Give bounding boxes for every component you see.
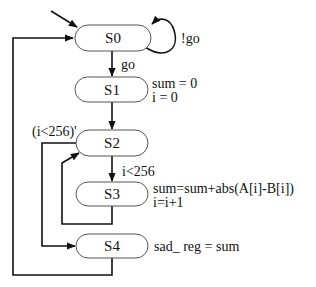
state-label: S1 <box>104 82 120 98</box>
state-s2[interactable]: S2 <box>76 130 148 156</box>
transition-s2-s4: (i<256)' <box>32 124 77 246</box>
reset-transition <box>51 11 77 27</box>
state-diagram: !go go i<256 (i<256)' S0 S1 sum = 0 i = … <box>0 0 316 287</box>
state-label: S2 <box>104 135 120 151</box>
state-label: S0 <box>105 30 121 46</box>
state-label: S3 <box>104 186 120 202</box>
state-s1[interactable]: S1 <box>75 77 148 102</box>
transition-label-not-i-lt-256: (i<256)' <box>32 124 77 140</box>
transition-s0-self-loop: !go <box>145 19 200 53</box>
state-s3[interactable]: S3 <box>76 182 148 206</box>
transition-label-not-go: !go <box>181 31 200 46</box>
transition-s0-s1: go <box>112 50 135 76</box>
state-s4-action-1: sad_ reg = sum <box>154 239 239 254</box>
transition-s2-s3: i<256 <box>112 156 155 181</box>
state-label: S4 <box>104 238 120 254</box>
state-s4[interactable]: S4 <box>76 234 148 258</box>
state-s1-action-2: i = 0 <box>152 90 178 105</box>
transition-label-i-lt-256: i<256 <box>122 164 155 179</box>
state-s1-action-1: sum = 0 <box>152 76 197 91</box>
state-s0[interactable]: S0 <box>75 25 151 51</box>
transition-label-go: go <box>121 57 135 72</box>
state-s3-action-2: i=i+1 <box>153 195 184 210</box>
